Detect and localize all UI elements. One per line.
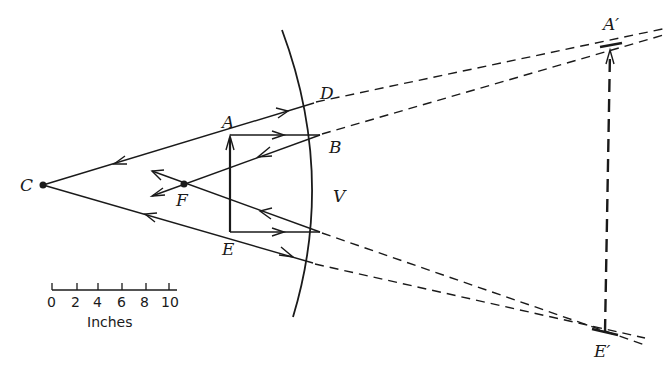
label-e: E xyxy=(221,239,235,259)
scale-unit-label: Inches xyxy=(87,314,132,330)
scale-label-6: 6 xyxy=(117,294,126,310)
label-a: A xyxy=(220,112,234,132)
center-of-curvature-point xyxy=(40,182,47,189)
virtual-ray-lower-2 xyxy=(315,264,645,338)
virtual-ray-d xyxy=(316,28,667,102)
virtual-ray-b xyxy=(322,34,667,134)
label-d: D xyxy=(319,83,334,103)
virtual-ray-lower-1 xyxy=(322,233,645,345)
scale-label-10: 10 xyxy=(161,294,179,310)
image-top-tick xyxy=(600,43,622,47)
mirror-ray-diagram: C F A E D B V A′ E′ 0 2 4 6 8 10 Inches xyxy=(0,0,667,373)
scale-label-2: 2 xyxy=(71,294,80,310)
scale-label-8: 8 xyxy=(140,294,149,310)
ray-arrow-icon xyxy=(279,247,293,257)
scale-label-4: 4 xyxy=(93,294,102,310)
scale-label-0: 0 xyxy=(47,294,56,310)
virtual-image-arrow xyxy=(605,52,610,332)
scale-bar: 0 2 4 6 8 10 Inches xyxy=(47,283,179,330)
label-b: B xyxy=(328,137,342,157)
label-c: C xyxy=(20,175,33,195)
ray-c-to-d xyxy=(43,103,314,185)
label-a-prime: A′ xyxy=(601,14,619,34)
concave-mirror xyxy=(282,30,312,317)
focal-point xyxy=(181,181,188,188)
label-e-prime: E′ xyxy=(593,341,610,361)
label-f: F xyxy=(175,190,189,210)
label-v: V xyxy=(333,186,347,206)
